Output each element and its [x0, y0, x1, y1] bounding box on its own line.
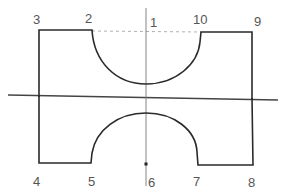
label-point-8: 8 [248, 175, 255, 190]
label-point-5: 5 [88, 174, 95, 189]
dashed-chord-line [92, 31, 201, 32]
label-point-9: 9 [254, 14, 261, 29]
label-point-2: 2 [85, 11, 92, 26]
label-point-10: 10 [193, 12, 207, 27]
horizontal-axis [8, 95, 278, 100]
point-6-marker [145, 163, 148, 166]
label-point-3: 3 [33, 12, 40, 27]
label-point-1: 1 [150, 15, 157, 30]
label-point-4: 4 [33, 174, 40, 189]
label-point-6: 6 [148, 175, 155, 190]
label-point-7: 7 [193, 174, 200, 189]
upper-outline [39, 30, 252, 100]
profile-diagram: 3 2 1 10 9 4 5 6 7 8 [0, 0, 284, 195]
